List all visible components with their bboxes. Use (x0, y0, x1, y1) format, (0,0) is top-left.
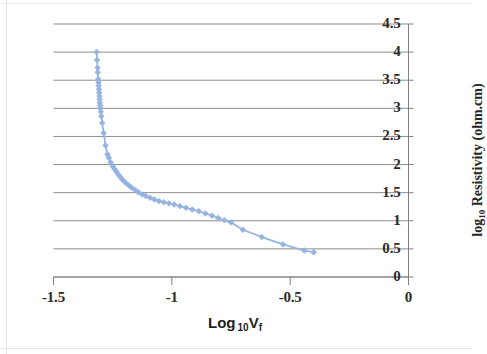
x-tick-label: -0.5 (265, 289, 315, 306)
x-tick-label: 0 (384, 289, 434, 306)
y-tick-label: 1 (361, 212, 401, 229)
data-point-marker (196, 208, 202, 214)
y-tick-label: 2.5 (361, 127, 401, 144)
data-point-marker (189, 207, 195, 213)
data-point-marker (161, 199, 167, 205)
data-point-marker (166, 200, 172, 206)
data-point-marker (99, 120, 105, 126)
x-tick-marks (54, 277, 409, 285)
y-tick-marks (409, 24, 414, 277)
data-point-marker (203, 211, 209, 217)
data-point-marker (209, 213, 215, 219)
y-tick-label: 3.5 (361, 71, 401, 88)
y-tick-label: 0.5 (361, 240, 401, 257)
data-point-marker (103, 143, 109, 149)
data-point-marker (221, 217, 227, 223)
series-line (97, 52, 314, 252)
y-tick-label: 2 (361, 156, 401, 173)
y-axis-title: log10 Resistivity (ohm.cm) (470, 50, 486, 270)
data-point-marker (94, 57, 100, 63)
data-point-marker (101, 130, 107, 136)
data-point-marker (95, 69, 101, 75)
data-point-marker (215, 215, 221, 221)
y-tick-label: 0 (361, 268, 401, 285)
data-point-marker (177, 203, 183, 209)
data-point-marker (311, 249, 317, 255)
data-point-marker (98, 113, 104, 119)
data-point-marker (183, 205, 189, 211)
x-axis-title: Log10Vf (150, 314, 320, 331)
data-point-marker (171, 202, 177, 208)
y-tick-label: 4 (361, 43, 401, 60)
x-tick-label: -1.5 (29, 289, 79, 306)
y-tick-label: 1.5 (361, 184, 401, 201)
y-tick-label: 4.5 (361, 15, 401, 32)
data-point-marker (259, 234, 265, 240)
x-tick-label: -1 (147, 289, 197, 306)
data-point-marker (280, 241, 286, 247)
data-point-marker (94, 49, 100, 55)
y-tick-label: 3 (361, 99, 401, 116)
